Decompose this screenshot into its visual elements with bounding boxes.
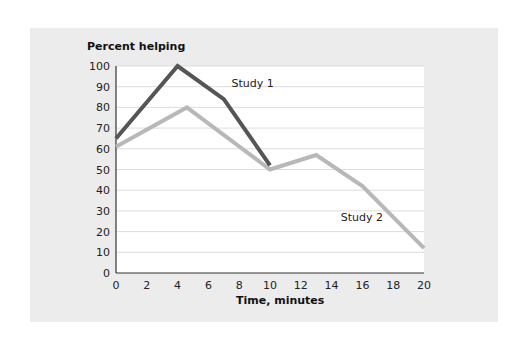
x-tick-label: 14 xyxy=(325,279,339,292)
x-tick-label: 6 xyxy=(205,279,212,292)
y-tick-label: 80 xyxy=(96,101,110,114)
x-tick-label: 2 xyxy=(143,279,150,292)
y-tick-label: 100 xyxy=(89,60,110,73)
y-tick-label: 40 xyxy=(96,184,110,197)
y-tick-label: 90 xyxy=(96,81,110,94)
y-tick-label: 50 xyxy=(96,164,110,177)
series-label-study-2: Study 2 xyxy=(341,211,383,224)
x-tick-label: 20 xyxy=(417,279,431,292)
line-chart: 010203040506070809010002468101214161820S… xyxy=(0,0,525,344)
x-tick-label: 18 xyxy=(386,279,400,292)
x-tick-label: 4 xyxy=(174,279,181,292)
x-tick-label: 12 xyxy=(294,279,308,292)
y-tick-label: 30 xyxy=(96,205,110,218)
series-label-study-1: Study 1 xyxy=(232,77,274,90)
x-tick-label: 0 xyxy=(113,279,120,292)
y-tick-label: 70 xyxy=(96,122,110,135)
y-tick-label: 60 xyxy=(96,143,110,156)
x-tick-label: 16 xyxy=(355,279,369,292)
y-tick-label: 10 xyxy=(96,246,110,259)
x-tick-label: 8 xyxy=(236,279,243,292)
y-tick-label: 20 xyxy=(96,226,110,239)
x-tick-label: 10 xyxy=(263,279,277,292)
y-tick-label: 0 xyxy=(103,267,110,280)
